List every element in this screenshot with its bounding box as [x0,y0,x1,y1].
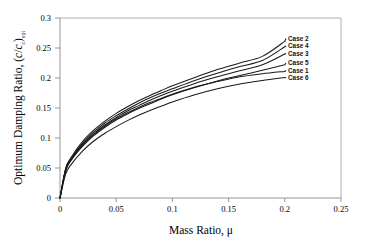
legend-label-case-2: Case 2 [288,35,309,42]
svg-text:Optimum Damping Ratio, (c/cc)o: Optimum Damping Ratio, (c/cc)opt [12,31,26,185]
y-tick-label-2: 0.1 [40,133,51,143]
plot-svg: 0 0.05 0.1 0.15 0.2 0.25 0.3 0 0.05 0.1 … [0,0,366,244]
leader-line-case-4 [285,46,286,47]
legend-label-case-6: Case 6 [288,74,309,81]
chart-figure: 0 0.05 0.1 0.15 0.2 0.25 0.3 0 0.05 0.1 … [0,0,366,244]
y-tick-label-4: 0.2 [40,73,51,83]
x-tick-label-3: 0.15 [221,204,236,214]
x-tick-label-1: 0.05 [109,204,124,214]
y-axis-title: Optimum Damping Ratio, (c/cc)opt [12,31,26,185]
y-tick-label-5: 0.25 [36,43,51,53]
legend-label-case-3: Case 3 [288,50,309,57]
x-tick-label-5: 0.25 [334,204,349,214]
y-axis-title-opt: opt [20,31,26,39]
y-tick-label-0: 0 [47,193,51,203]
y-axis-title-main: Optimum Damping Ratio, ( [12,58,25,185]
leader-line-case-6 [285,77,286,78]
y-tick-label-1: 0.05 [36,163,51,173]
x-tick-label-4: 0.2 [279,204,290,214]
chart-background [0,0,366,244]
legend-label-case-4: Case 4 [288,42,309,49]
x-tick-label-2: 0.1 [167,204,178,214]
x-tick-label-0: 0 [58,204,62,214]
y-tick-label-3: 0.15 [36,103,51,113]
leader-line-case-1 [285,71,286,72]
legend-label-case-5: Case 5 [288,59,309,66]
leader-line-case-3 [285,54,286,55]
x-axis-title: Mass Ratio, μ [169,224,233,237]
y-tick-label-6: 0.3 [40,13,51,23]
legend-label-case-1: Case 1 [288,67,309,74]
